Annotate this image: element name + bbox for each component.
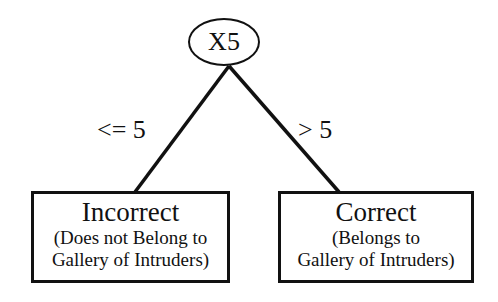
leaf-subtitle-line2: Gallery of Intruders) [297,249,454,271]
root-node: X5 [188,18,260,66]
leaf-subtitle-line2: Gallery of Intruders) [52,249,209,271]
edge-label-left: <= 5 [97,115,146,145]
leaf-title: Incorrect [82,197,179,227]
root-node-label: X5 [208,27,240,57]
edge-left [135,66,229,192]
leaf-subtitle-line1: (Does not Belong to [54,227,208,249]
leaf-subtitle-line1: (Belongs to [332,227,420,249]
leaf-node-correct: Correct (Belongs to Gallery of Intruders… [278,191,474,283]
leaf-title: Correct [336,197,417,227]
leaf-node-incorrect: Incorrect (Does not Belong to Gallery of… [31,191,230,283]
edge-label-right: > 5 [298,115,332,145]
